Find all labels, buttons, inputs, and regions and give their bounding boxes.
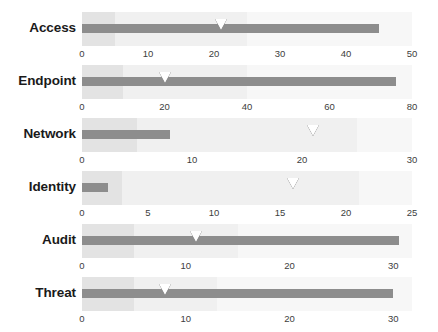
target-marker — [159, 284, 171, 295]
row-label-identity: Identity — [0, 179, 76, 194]
target-marker — [215, 19, 227, 30]
bullet-track — [82, 171, 412, 205]
qualitative-band — [82, 171, 359, 205]
bullet-track — [82, 12, 412, 46]
axis-tick-label: 15 — [275, 207, 286, 218]
bullet-row: Audit0102030 — [0, 224, 438, 277]
target-marker — [190, 231, 202, 242]
axis-tick-label: 80 — [407, 101, 418, 112]
axis-tick-label: 40 — [242, 101, 253, 112]
measure-bar — [82, 24, 379, 33]
measure-bar — [82, 77, 396, 86]
row-label-network: Network — [0, 126, 76, 141]
axis-tick-label: 30 — [275, 48, 286, 59]
axis-tick-label: 20 — [341, 207, 352, 218]
axis-tick-label: 20 — [284, 313, 295, 324]
row-label-threat: Threat — [0, 285, 76, 300]
axis-tick-label: 10 — [180, 260, 191, 271]
bullet-track — [82, 118, 412, 152]
axis-tick-label: 0 — [79, 313, 84, 324]
row-label-access: Access — [0, 20, 76, 35]
axis-tick-label: 30 — [407, 154, 418, 165]
measure-bar — [82, 236, 399, 245]
axis-tick-label: 0 — [79, 260, 84, 271]
axis-tick-label: 5 — [145, 207, 150, 218]
measure-bar — [82, 183, 108, 192]
bullet-row: Endpoint020406080 — [0, 65, 438, 118]
axis-tick-label: 30 — [388, 313, 399, 324]
axis-tick-label: 40 — [341, 48, 352, 59]
bullet-track — [82, 65, 412, 99]
row-label-endpoint: Endpoint — [0, 73, 76, 88]
bullet-row: Identity0510152025 — [0, 171, 438, 224]
axis-tick-label: 10 — [180, 313, 191, 324]
axis-tick-label: 0 — [79, 207, 84, 218]
axis-tick-label: 20 — [297, 154, 308, 165]
measure-bar — [82, 289, 393, 298]
axis-tick-label: 20 — [284, 260, 295, 271]
bullet-row: Access01020304050 — [0, 12, 438, 65]
axis-tick-label: 30 — [388, 260, 399, 271]
axis-tick-label: 0 — [79, 154, 84, 165]
row-label-audit: Audit — [0, 232, 76, 247]
axis-tick-label: 0 — [79, 101, 84, 112]
target-marker — [159, 72, 171, 83]
axis-tick-label: 0 — [79, 48, 84, 59]
axis-tick-label: 10 — [143, 48, 154, 59]
axis-tick-label: 20 — [209, 48, 220, 59]
bullet-track — [82, 277, 412, 311]
axis-tick-label: 25 — [407, 207, 418, 218]
axis-tick-label: 10 — [187, 154, 198, 165]
axis-tick-label: 50 — [407, 48, 418, 59]
bullet-row: Network0102030 — [0, 118, 438, 171]
bullet-chart: Access01020304050Endpoint020406080Networ… — [0, 0, 438, 332]
target-marker — [307, 125, 319, 136]
target-marker — [287, 178, 299, 189]
axis-tick-label: 20 — [159, 101, 170, 112]
axis-tick-label: 60 — [324, 101, 335, 112]
axis-tick-label: 10 — [209, 207, 220, 218]
measure-bar — [82, 130, 170, 139]
bullet-track — [82, 224, 412, 258]
bullet-row: Threat0102030 — [0, 277, 438, 330]
